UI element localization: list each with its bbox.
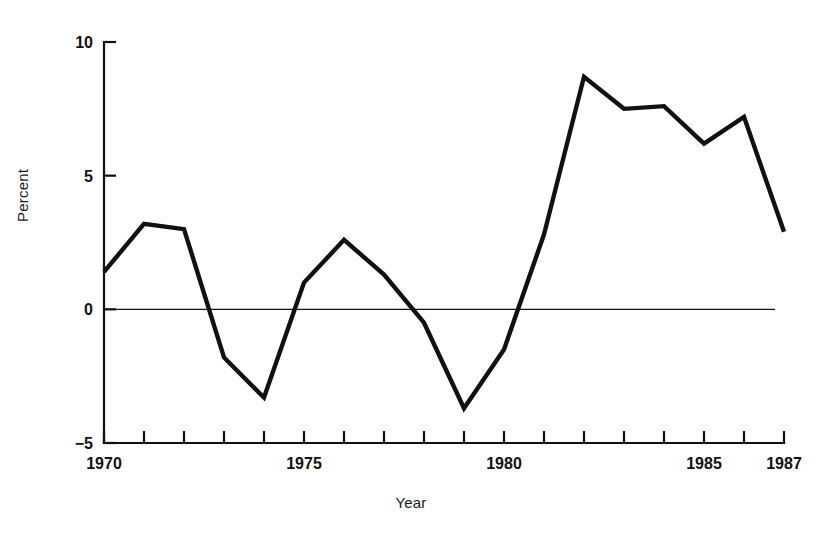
- x-axis-tick-label: 1985: [686, 455, 722, 472]
- y-axis-tick-label: 0: [84, 301, 93, 318]
- x-axis-tick-label: 1970: [86, 455, 122, 472]
- x-axis-tick-labels: 19701975198019851987: [86, 455, 802, 472]
- data-series-line: [104, 77, 784, 409]
- y-axis-tick-label: 5: [84, 168, 93, 185]
- x-axis-ticks: [104, 431, 784, 443]
- x-axis: 19701975198019851987: [86, 431, 802, 472]
- line-chart: −50510 19701975198019851987: [0, 0, 822, 536]
- x-axis-tick-label: 1987: [766, 455, 802, 472]
- x-axis-tick-label: 1980: [486, 455, 522, 472]
- y-axis-tick-labels: −50510: [75, 34, 93, 452]
- y-axis-tick-label: −5: [75, 435, 93, 452]
- y-axis-title: Percent: [14, 169, 31, 222]
- x-axis-title: Year: [0, 494, 822, 511]
- chart-container: −50510 19701975198019851987 Percent Year: [0, 0, 822, 536]
- x-axis-tick-label: 1975: [286, 455, 322, 472]
- y-axis-tick-label: 10: [75, 34, 93, 51]
- y-axis-ticks: [104, 42, 116, 443]
- y-axis: −50510: [75, 34, 116, 452]
